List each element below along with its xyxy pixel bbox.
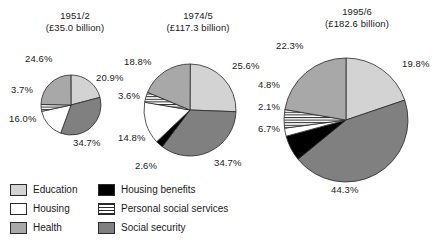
pie-slice-health [41,75,71,105]
legend-row: Health Social security [10,218,250,237]
pct-1995-social-security: 44.3% [331,184,358,195]
pct-1974-housing: 14.8% [118,132,145,143]
legend-row: Housing Personal social services [10,199,250,218]
pie-slice-health [285,58,346,120]
legend-label-health: Health [33,222,62,234]
pie-chart-1995-title-line2: (£182.6 billion) [292,18,422,30]
pie-chart-1995: 1995/6 (£182.6 billion) 19.8% 44.3% 6.7%… [258,0,448,200]
pct-1974-personal-social-services: 3.6% [118,90,140,101]
pct-1974-health: 18.8% [124,56,151,67]
pct-1951-health: 24.6% [25,53,52,64]
legend-label-education: Education [33,184,77,196]
pie-chart-figure: 1951/2 (£35.0 billion) 20.9% 34.7% 16.0%… [0,0,448,248]
pct-1951-social-security: 34.7% [73,137,100,148]
legend-label-housing: Housing [33,203,70,215]
legend-label-social-security: Social security [121,222,185,234]
pie-chart-1995-slices [284,58,408,182]
health-swatch [10,222,27,234]
legend-item-housing: Housing [10,203,98,215]
pct-1995-personal-social-services: 4.8% [258,79,280,90]
pie-slice-education [190,64,236,112]
housing-swatch [10,203,27,215]
pie-chart-1995-svg [258,0,448,200]
legend-item-housing-benefits: Housing benefits [98,184,196,196]
legend-item-education: Education [10,184,98,196]
legend-item-social-security: Social security [98,222,185,234]
pie-chart-1995-title-line1: 1995/6 [342,6,372,17]
pct-1995-housing: 2.1% [258,101,280,112]
pie-chart-1995-title: 1995/6 (£182.6 billion) [292,6,422,30]
education-swatch [10,184,27,196]
pie-chart-1951-title-line2: (£35.0 billion) [15,22,135,34]
pct-1995-education: 19.8% [402,58,429,69]
pie-chart-1951-title: 1951/2 (£35.0 billion) [15,10,135,34]
pie-chart-1951-title-line1: 1951/2 [60,10,90,21]
pct-1951-personal-social-services: 3.7% [11,84,33,95]
pie-chart-1974: 1974/5 (£117.3 billion) 25.6% 34.7% 2.6%… [118,0,278,180]
legend-label-housing-benefits: Housing benefits [121,184,196,196]
legend-item-health: Health [10,222,98,234]
pct-1974-social-security: 34.7% [214,157,241,168]
pie-chart-1974-slices [144,64,236,156]
pct-1951-housing: 16.0% [9,113,36,124]
pie-chart-1974-title-line1: 1974/5 [183,10,213,21]
housing-benefits-swatch [98,184,115,196]
social-security-swatch [98,222,115,234]
legend-label-personal-social-services: Personal social services [121,203,228,215]
legend-row: Education Housing benefits [10,180,250,199]
pie-chart-1974-title-line2: (£117.3 billion) [136,22,260,34]
pct-1974-education: 25.6% [232,60,259,71]
pct-1995-housing-benefits: 6.7% [258,123,280,134]
pct-1995-health: 22.3% [276,40,303,51]
pie-chart-1974-title: 1974/5 (£117.3 billion) [136,10,260,34]
pct-1974-housing-benefits: 2.6% [135,160,157,171]
chart-legend: Education Housing benefits Housing Perso… [10,180,250,237]
legend-item-personal-social-services: Personal social services [98,203,228,215]
personal-social-services-swatch [98,203,115,215]
pie-chart-1951-slices [41,75,101,135]
